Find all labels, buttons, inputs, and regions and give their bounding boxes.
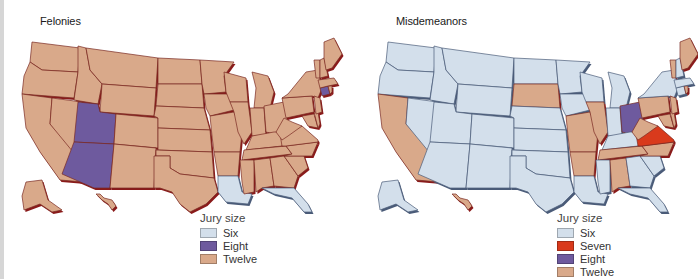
state-ks	[158, 128, 212, 152]
misdemeanors-legend: Jury size SixSevenEightTwelve	[557, 212, 614, 278]
state-mi	[252, 72, 274, 108]
legend-label: Six	[580, 227, 595, 239]
legend-label: Seven	[580, 240, 611, 252]
legend-title: Jury size	[557, 212, 614, 224]
felonies-panel: Felonies Jury size SixEightTwelve	[0, 0, 345, 279]
state-fl	[618, 188, 668, 212]
misdemeanors-title: Misdemeanors	[396, 15, 467, 27]
felonies-title: Felonies	[40, 15, 81, 27]
state-ks	[514, 128, 568, 152]
state-ak	[378, 180, 418, 212]
state-nd	[158, 58, 202, 84]
legend-swatch-eight	[557, 254, 574, 264]
state-nm	[466, 144, 512, 188]
legend-label: Six	[223, 227, 238, 239]
misdemeanors-us-map	[368, 32, 698, 212]
state-fl	[262, 188, 312, 212]
legend-label: Twelve	[580, 266, 614, 278]
legend-label: Eight	[580, 253, 605, 265]
state-me	[680, 38, 698, 70]
state-ar	[214, 152, 240, 176]
legend-swatch-six	[200, 228, 217, 238]
state-sd	[156, 84, 204, 108]
state-in	[606, 108, 622, 136]
legend-item-eight: Eight	[200, 239, 257, 252]
state-me	[324, 38, 342, 70]
legend-item-twelve: Twelve	[200, 252, 257, 265]
legend-label: Twelve	[223, 253, 257, 265]
legend-swatch-seven	[557, 241, 574, 251]
state-ak	[22, 180, 62, 212]
state-sd	[512, 84, 560, 108]
legend-label: Eight	[223, 240, 248, 252]
state-nj	[670, 96, 678, 114]
felonies-us-map	[12, 32, 342, 212]
legend-item-six: Six	[200, 226, 257, 239]
state-mi	[608, 72, 630, 108]
state-ne	[154, 106, 210, 130]
legend-swatch-eight	[200, 241, 217, 251]
state-nd	[514, 58, 558, 84]
state-hi	[452, 194, 472, 210]
misdemeanors-panel: Misdemeanors Jury size SixSevenEightTwel…	[345, 0, 693, 279]
state-nm	[110, 144, 156, 188]
legend-item-seven: Seven	[557, 239, 614, 252]
state-wy	[100, 84, 156, 116]
legend-title: Jury size	[200, 212, 257, 224]
state-co	[114, 114, 158, 148]
felonies-legend: Jury size SixEightTwelve	[200, 212, 257, 265]
legend-item-six: Six	[557, 226, 614, 239]
legend-swatch-six	[557, 228, 574, 238]
legend-item-eight: Eight	[557, 252, 614, 265]
legend-swatch-twelve	[557, 267, 574, 277]
legend-item-twelve: Twelve	[557, 265, 614, 278]
state-nj	[314, 96, 322, 114]
state-in	[250, 108, 266, 136]
state-co	[470, 114, 514, 148]
state-ar	[570, 152, 596, 176]
state-hi	[96, 194, 116, 210]
legend-swatch-twelve	[200, 254, 217, 264]
state-wy	[456, 84, 512, 116]
state-ne	[510, 106, 566, 130]
